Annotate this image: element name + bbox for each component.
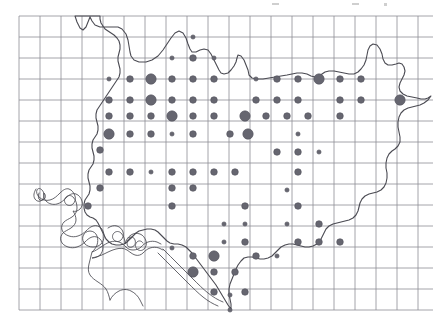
dot-symbol-medium [190,253,197,260]
dot-symbol-medium [169,185,176,192]
dot-symbol-medium [274,97,281,104]
dot-symbol-medium [337,97,344,104]
dot-symbol-medium [148,131,155,138]
reference-grid [19,16,433,310]
dot-symbol-small [212,56,216,60]
dot-symbol-medium [169,169,176,176]
dot-symbol-medium [242,239,249,246]
dot-symbol-medium [253,97,260,104]
dot-symbol-medium [305,113,312,120]
dot-symbol-medium [295,76,302,83]
region-outline-path [75,16,431,309]
dot-symbol-medium [295,97,302,104]
dot-symbol-medium [263,113,270,120]
dot-symbol-small [243,222,247,226]
dot-symbol-medium [337,239,344,246]
river-south-branch [88,252,143,306]
dot-symbol-medium [211,76,218,83]
graduated-dot-symbols [85,35,406,312]
dot-symbol-medium [190,169,197,176]
dot-symbol-medium [253,253,260,260]
dot-symbol-medium [190,131,197,138]
dot-symbol-medium [295,239,302,246]
river-main-channel-se-bank [158,253,218,306]
dot-symbol-medium [127,76,134,83]
scan-speck [352,3,359,5]
dot-symbol-large [188,267,198,277]
dot-symbol-medium [211,113,218,120]
dot-symbol-medium [274,76,281,83]
dot-symbol-large [240,111,250,121]
dot-symbol-small [317,150,321,154]
dot-symbol-medium [284,113,291,120]
dot-symbol-small [149,170,153,174]
dot-symbol-small [275,254,279,258]
dot-symbol-medium [127,97,134,104]
dot-symbol-medium [242,203,249,210]
dot-symbol-medium [295,169,302,176]
dot-symbol-small [222,240,226,244]
dot-symbol-small [228,293,232,297]
dot-symbol-medium [97,185,104,192]
dot-symbol-small [170,246,174,250]
dot-symbol-medium [316,239,323,246]
dot-symbol-large [243,129,253,139]
dot-symbol-large [146,74,156,84]
dot-symbol-large [395,95,405,105]
dot-symbol-medium [337,76,344,83]
dot-symbol-medium [337,113,344,120]
dot-symbol-medium [106,97,113,104]
dot-symbol-large [314,74,324,84]
distribution-map-figure [0,0,445,325]
dot-symbol-medium [190,76,197,83]
river-bank-north [34,189,161,253]
region-outline [75,16,431,309]
dot-symbol-medium [190,55,197,62]
dot-symbol-medium [232,269,239,276]
dot-symbol-small [285,222,289,226]
dot-symbol-medium [211,269,218,276]
dot-symbol-medium [127,113,134,120]
dot-symbol-medium [190,185,197,192]
dot-symbol-medium [295,149,302,156]
dot-symbol-medium [85,203,92,210]
dot-symbol-medium [190,97,197,104]
dot-symbol-small [170,132,174,136]
dot-symbol-medium [106,169,113,176]
dot-symbol-small [285,188,289,192]
dot-symbol-small [191,35,195,39]
dot-symbol-small [107,77,111,81]
dot-symbol-small [222,222,226,226]
dot-symbol-large [104,129,114,139]
dot-symbol-medium [316,221,323,228]
dot-symbol-small [228,308,232,312]
dot-symbol-medium [295,203,302,210]
dot-symbol-medium [127,131,134,138]
dot-symbol-medium [274,149,281,156]
dot-symbol-small [254,77,258,81]
dot-symbol-medium [148,113,155,120]
dot-symbol-medium [227,131,234,138]
dot-symbol-medium [190,113,197,120]
dot-symbol-small [296,132,300,136]
dot-symbol-medium [169,97,176,104]
dot-symbol-medium [358,76,365,83]
dot-symbol-medium [211,169,218,176]
dot-symbol-medium [211,97,218,104]
dot-symbol-medium [97,147,104,154]
dot-symbol-small [170,56,174,60]
dot-symbol-medium [169,203,176,210]
dot-symbol-medium [232,169,239,176]
dot-symbol-medium [169,76,176,83]
dot-symbol-medium [358,97,365,104]
dot-symbol-medium [127,169,134,176]
scan-speck [272,3,279,5]
dot-symbol-large [146,95,156,105]
dot-symbol-medium [211,289,218,296]
scan-speck [384,3,387,6]
dot-symbol-large [167,111,177,121]
dot-symbol-medium [242,289,249,296]
map-canvas [0,0,445,325]
dot-symbol-large [209,251,219,261]
dot-symbol-medium [106,113,113,120]
